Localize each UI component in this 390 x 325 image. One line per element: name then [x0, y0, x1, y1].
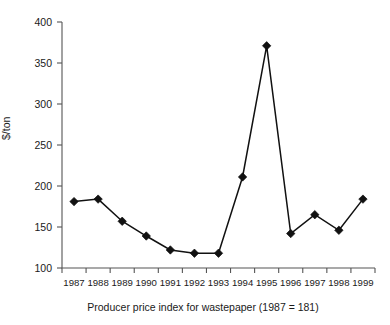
data-point-marker	[214, 249, 222, 257]
y-tick-label: 350	[34, 57, 52, 69]
data-point-marker	[190, 249, 198, 257]
x-tick-mark-group	[62, 268, 375, 273]
data-point-marker	[166, 246, 174, 254]
x-tick-label: 1995	[256, 277, 277, 288]
x-tick-label: 1996	[280, 277, 301, 288]
x-tick-label: 1992	[184, 277, 205, 288]
chart-figure: $/ton 100150200250300350400 198719881989…	[0, 0, 390, 325]
y-tick-label: 250	[34, 139, 52, 151]
data-point-marker	[238, 173, 246, 181]
x-tick-label: 1991	[160, 277, 181, 288]
x-tick-label: 1997	[304, 277, 325, 288]
series-marker-group	[70, 42, 367, 258]
x-tick-label: 1989	[112, 277, 133, 288]
y-tick-label: 300	[34, 98, 52, 110]
data-point-marker	[70, 197, 78, 205]
x-tick-label: 1988	[87, 277, 108, 288]
x-tick-label: 1990	[136, 277, 157, 288]
x-tick-label: 1999	[352, 277, 373, 288]
series-line-wastepaper	[74, 46, 363, 253]
x-tick-label: 1998	[328, 277, 349, 288]
x-tick-label: 1987	[63, 277, 84, 288]
axis-lines	[62, 22, 375, 268]
y-tick-label: 150	[34, 221, 52, 233]
y-tick-mark-group	[57, 22, 62, 268]
y-tick-label-group: 100150200250300350400	[34, 16, 52, 274]
y-tick-label: 100	[34, 262, 52, 274]
y-tick-label: 400	[34, 16, 52, 28]
data-point-marker	[262, 42, 270, 50]
y-tick-label: 200	[34, 180, 52, 192]
x-tick-label-group: 1987198819891990199119921993199419951996…	[63, 277, 373, 288]
chart-caption: Producer price index for wastepaper (198…	[87, 301, 318, 313]
x-tick-label: 1993	[208, 277, 229, 288]
data-point-marker	[142, 232, 150, 240]
x-tick-label: 1994	[232, 277, 254, 288]
line-chart-plot: 100150200250300350400 198719881989199019…	[0, 0, 390, 325]
